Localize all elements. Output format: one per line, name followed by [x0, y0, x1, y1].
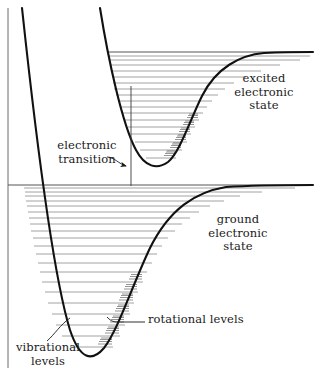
ground-rotational-levels [98, 275, 142, 345]
figure-canvas: excited electronic state ground electron… [0, 0, 315, 376]
excited-state-label: excited electronic state [222, 72, 306, 113]
rotational-levels-label: rotational levels [148, 313, 264, 327]
vibrational-levels-label: vibrational levels [2, 341, 94, 368]
ground-state-label: ground electronic state [196, 213, 280, 254]
electronic-transition-label: electronic transition [44, 139, 130, 166]
